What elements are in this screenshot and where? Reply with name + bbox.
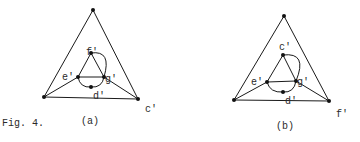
edge-top-right <box>284 16 329 101</box>
label-d: d' <box>93 91 105 102</box>
figure-a: f' e' g' d' c' (a) <box>42 8 157 127</box>
node-right <box>136 97 140 101</box>
edge-bottom <box>44 97 138 99</box>
node-top <box>91 8 95 12</box>
edge-e-g <box>267 81 296 82</box>
figure-canvas: f' e' g' d' c' (a) Fig. 4. c' e' g' d' f… <box>0 0 360 142</box>
label-g: g' <box>297 77 309 88</box>
figure-caption: Fig. 4. <box>2 118 44 129</box>
label-corner: c' <box>145 104 157 115</box>
label-e: e' <box>62 72 74 83</box>
sublabel-a: (a) <box>81 116 99 127</box>
node-top <box>282 14 286 18</box>
label-corner: f' <box>336 109 348 120</box>
edge-bottom <box>234 100 329 101</box>
label-apex: c' <box>279 42 291 53</box>
node-left <box>232 98 236 102</box>
figure-b: c' e' g' d' f' (b) <box>232 14 348 132</box>
node-e <box>265 80 269 84</box>
label-g: g' <box>105 74 117 85</box>
label-d: d' <box>285 96 297 107</box>
node-right <box>327 99 331 103</box>
node-d <box>281 90 285 94</box>
edge-apex-e <box>267 55 283 82</box>
node-d <box>89 85 93 89</box>
label-apex: f' <box>86 47 98 58</box>
node-e <box>76 75 80 79</box>
edge-top-right <box>93 10 138 99</box>
arc-e-d-g <box>267 81 296 92</box>
sublabel-b: (b) <box>276 121 294 132</box>
label-e: e' <box>251 77 263 88</box>
node-left <box>42 95 46 99</box>
edge-apex-g <box>283 55 296 81</box>
node-apex <box>281 53 285 57</box>
